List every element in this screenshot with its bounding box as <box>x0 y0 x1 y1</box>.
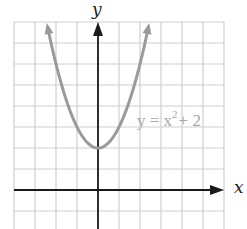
equation-exponent: 2 <box>172 108 178 120</box>
equation-label: y = x2+ 2 <box>137 108 201 130</box>
equation-tail: + 2 <box>179 111 201 130</box>
curve-arrow-right-icon <box>143 23 152 35</box>
equation-main: y = x <box>137 111 173 130</box>
x-axis-arrow-icon <box>210 185 224 195</box>
y-axis-label: y <box>91 0 102 19</box>
y-axis-arrow-icon <box>93 22 103 36</box>
curve-arrow-left-icon <box>45 23 54 35</box>
x-axis-label: x <box>234 177 244 197</box>
coordinate-plane: x y y = x2+ 2 <box>0 0 247 229</box>
